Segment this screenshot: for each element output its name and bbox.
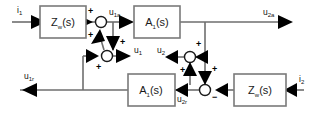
sign-sum-mid-bottom: + — [96, 62, 101, 72]
signal-label-i1: i1 — [17, 5, 23, 16]
signal-label-i2: i2 — [299, 74, 305, 85]
arrowhead-sum-right-to-u2 — [165, 50, 178, 64]
signal-label-u2a: u2a — [263, 7, 275, 18]
sign-sum-right-top: + — [196, 39, 201, 49]
sign-sum-lower-top: + — [212, 64, 217, 74]
arrowhead-u1r-output — [22, 83, 37, 97]
sign-sum-right-bottom: + — [180, 65, 185, 75]
block-diagram: Zw(s) A1(s) A1(s) Zw(s) + + + + + + + − — [0, 0, 316, 116]
sign-sum-lower-right: − — [212, 92, 217, 102]
sign-sum-left-top: + — [88, 6, 93, 16]
arrowhead-into-a1-top — [119, 15, 134, 29]
arrowhead-into-mid-sum-left — [86, 49, 99, 63]
arrowhead-rail-down-into-lower-sum — [198, 71, 212, 85]
arrowhead-mid-sum-to-u1 — [116, 49, 131, 63]
diagram-canvas: Zw(s) A1(s) A1(s) Zw(s) + + + + + + + − — [0, 0, 316, 116]
arrowhead-into-sum-right — [195, 50, 208, 64]
summing-node-left[interactable] — [96, 17, 107, 28]
arrowhead-branch-down-into-mid-sum — [106, 36, 120, 51]
summing-node-mid[interactable] — [102, 51, 113, 62]
signal-label-u1r: u1r — [24, 71, 34, 82]
summing-node-lower[interactable] — [200, 85, 211, 96]
signal-label-u2: u2 — [157, 45, 166, 56]
signal-label-u1: u1 — [134, 45, 143, 56]
block-zw-left-label: Zw(s) — [51, 16, 75, 30]
sign-sum-mid-top: + — [120, 37, 125, 47]
block-a1-top-label: A1(s) — [145, 16, 169, 30]
signal-label-u1a: u1a — [109, 7, 121, 18]
block-group: Zw(s) A1(s) A1(s) Zw(s) — [40, 6, 286, 106]
sign-sum-left-bottom: + — [88, 30, 93, 40]
block-a1-bottom-label: A1(s) — [139, 84, 163, 98]
block-zw-right-label: Zw(s) — [248, 84, 272, 98]
arrowhead-u2a-output — [278, 15, 293, 29]
summing-node-right[interactable] — [185, 52, 196, 63]
